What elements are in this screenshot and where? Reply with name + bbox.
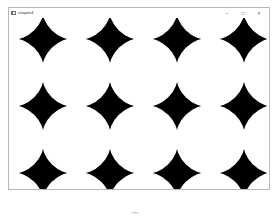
app-window: chapter4 – □ × (8, 7, 270, 190)
star-pattern-graphic (9, 18, 269, 189)
close-icon[interactable]: × (251, 8, 267, 18)
taskbar-app-icon[interactable] (131, 212, 139, 216)
title-bar[interactable]: chapter4 – □ × (9, 8, 269, 18)
drawing-canvas (9, 18, 269, 189)
window-title: chapter4 (18, 8, 34, 18)
app-window-icon (11, 11, 16, 15)
maximize-icon[interactable]: □ (235, 8, 251, 18)
window-controls: – □ × (219, 8, 267, 18)
minimize-icon[interactable]: – (219, 8, 235, 18)
